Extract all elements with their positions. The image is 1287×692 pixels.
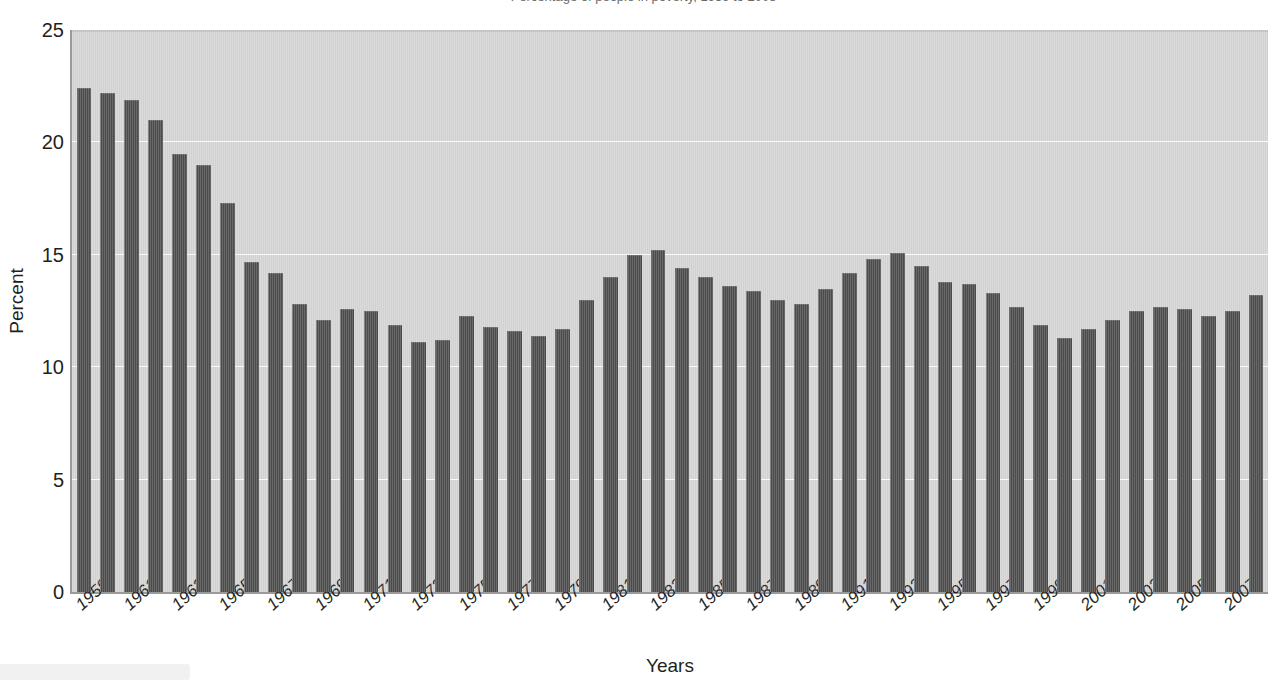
bar-1969 xyxy=(316,320,331,592)
bar-1972 xyxy=(388,325,403,593)
bar-2007 xyxy=(1225,311,1240,592)
page-residual-band xyxy=(0,664,190,680)
x-axis-tick-labels: 1959196119631965196719691971197319751977… xyxy=(72,594,1268,654)
y-tick-label-20: 20 xyxy=(2,132,64,152)
bar-1996 xyxy=(962,284,977,592)
bar-1971 xyxy=(364,311,379,592)
bar-2002 xyxy=(1105,320,1120,592)
bar-1973 xyxy=(411,342,426,592)
bar-1970 xyxy=(340,309,355,592)
bar-2005 xyxy=(1177,309,1192,592)
plot-area xyxy=(72,30,1268,592)
y-tick-label-5: 5 xyxy=(2,470,64,490)
bar-1983 xyxy=(651,250,666,592)
bar-2003 xyxy=(1129,311,1144,592)
bar-1968 xyxy=(292,304,307,592)
bar-1991 xyxy=(842,273,857,592)
bar-1978 xyxy=(531,336,546,592)
bar-1992 xyxy=(866,259,881,592)
bar-1997 xyxy=(986,293,1001,592)
bar-1967 xyxy=(268,273,283,592)
bar-1990 xyxy=(818,289,833,592)
bar-1974 xyxy=(435,340,450,592)
x-axis-title: Years xyxy=(72,655,1268,677)
y-tick-label-25: 25 xyxy=(2,20,64,40)
bar-1977 xyxy=(507,331,522,592)
bar-1981 xyxy=(603,277,618,592)
bar-1980 xyxy=(579,300,594,592)
bar-1964 xyxy=(196,165,211,592)
poverty-rate-bar-chart: Percentage of people in poverty, 1959 to… xyxy=(0,0,1287,692)
bar-1985 xyxy=(698,277,713,592)
bar-1994 xyxy=(914,266,929,592)
bar-1979 xyxy=(555,329,570,592)
bar-1965 xyxy=(220,203,235,592)
bar-1998 xyxy=(1009,307,1024,592)
bar-1987 xyxy=(746,291,761,592)
bar-1976 xyxy=(483,327,498,592)
bar-2008 xyxy=(1249,295,1264,592)
bar-2004 xyxy=(1153,307,1168,592)
clipped-chart-title: Percentage of people in poverty, 1959 to… xyxy=(0,0,1287,9)
bar-1962 xyxy=(148,120,163,592)
bar-2001 xyxy=(1081,329,1096,592)
bar-1995 xyxy=(938,282,953,592)
bar-1961 xyxy=(124,100,139,592)
bar-1960 xyxy=(100,93,115,592)
bar-1993 xyxy=(890,253,905,592)
bar-1982 xyxy=(627,255,642,592)
y-axis-title: Percent xyxy=(6,236,28,366)
y-tick-label-0: 0 xyxy=(2,582,64,602)
bar-1959 xyxy=(77,88,92,592)
bar-2006 xyxy=(1201,316,1216,593)
bar-1984 xyxy=(675,268,690,592)
bar-1975 xyxy=(459,316,474,593)
bar-1986 xyxy=(722,286,737,592)
bar-series xyxy=(72,30,1268,592)
bar-1989 xyxy=(794,304,809,592)
bar-2000 xyxy=(1057,338,1072,592)
plot-top-edge xyxy=(72,30,1268,32)
chart-title-text: Percentage of people in poverty, 1959 to… xyxy=(0,0,1287,4)
bar-1963 xyxy=(172,154,187,592)
bar-1966 xyxy=(244,262,259,592)
bar-1999 xyxy=(1033,325,1048,593)
bar-1988 xyxy=(770,300,785,592)
